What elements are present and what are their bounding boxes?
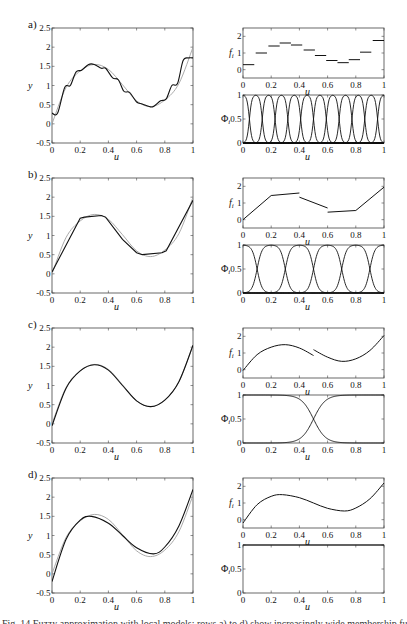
- x-tick-label: 1: [191, 145, 196, 155]
- y-axis-label: fi: [229, 497, 234, 510]
- y-axis-label: fi: [229, 47, 234, 60]
- y-axis-label: Φi: [221, 563, 230, 576]
- y-tick-label: 1: [237, 198, 242, 208]
- x-axis-label: u: [305, 601, 310, 612]
- x-tick-label: 0.6: [322, 530, 334, 540]
- figure: a) 00.20.40.60.81-0.500.511.522.5uy00.20…: [0, 0, 407, 624]
- y-tick-label: 0.5: [39, 550, 51, 560]
- local-model-segment: [243, 345, 314, 371]
- figure-caption: Fig. 14 Fuzzy approximation with local m…: [2, 617, 407, 624]
- x-tick-label: 0.8: [350, 530, 362, 540]
- local-model-segment: [243, 483, 384, 523]
- x-tick-label: 0.6: [322, 445, 334, 455]
- x-tick-label: 0: [241, 295, 246, 305]
- x-tick-label: 1: [191, 295, 196, 305]
- y-tick-label: 0.5: [39, 250, 51, 260]
- x-axis-label: u: [305, 151, 310, 162]
- y-tick-label: 1: [46, 231, 51, 241]
- x-tick-label: 0.8: [350, 230, 362, 240]
- x-tick-label: 0.2: [266, 230, 277, 240]
- y-tick-label: 0: [237, 288, 242, 298]
- y-tick-label: 0.5: [230, 564, 242, 574]
- x-tick-label: 0: [50, 145, 55, 155]
- target-curve: [52, 495, 193, 574]
- y-tick-label: 0.5: [39, 100, 51, 110]
- x-tick-label: 1: [191, 595, 196, 605]
- x-tick-label: 0.8: [350, 380, 362, 390]
- y-axis-label: y: [27, 80, 33, 91]
- y-tick-label: 1.5: [39, 361, 51, 371]
- y-axis-label: Φi: [221, 113, 230, 126]
- x-tick-label: 1: [382, 595, 387, 605]
- x-tick-label: 0.8: [159, 445, 171, 455]
- chart-row-b: 00.20.40.60.81-0.500.511.522.5uy00.20.40…: [27, 173, 386, 312]
- y-axis-label: Φi: [221, 263, 230, 276]
- x-tick-label: 0.4: [103, 445, 115, 455]
- x-axis-label: u: [114, 451, 119, 462]
- membership-plot: 00.20.40.60.8100.51uΦi: [221, 240, 386, 312]
- y-axis-label: y: [27, 230, 33, 241]
- panel-label-d: d): [28, 468, 37, 480]
- y-tick-label: 0.5: [39, 400, 51, 410]
- x-tick-label: 0.4: [103, 145, 115, 155]
- target-curve: [52, 197, 193, 274]
- y-tick-label: 0: [237, 588, 242, 598]
- y-tick-label: 1: [237, 498, 242, 508]
- y-tick-label: 2: [237, 181, 242, 191]
- y-tick-label: 0: [46, 419, 51, 429]
- y-tick-label: 2: [46, 192, 51, 202]
- local-model-segment: [243, 193, 299, 220]
- membership-plot: 00.20.40.60.8100.51uΦi: [221, 90, 386, 162]
- y-tick-label: 2: [46, 342, 51, 352]
- y-tick-label: 2.5: [39, 23, 51, 33]
- local-models-plot: 00.20.40.60.81012ufi: [229, 178, 386, 247]
- local-models-plot: 00.20.40.60.81012ufi: [229, 478, 386, 547]
- x-tick-label: 0.4: [294, 530, 306, 540]
- x-tick-label: 0.2: [266, 445, 277, 455]
- local-model-segment: [314, 336, 385, 362]
- panel-label-c: c): [28, 318, 37, 330]
- y-tick-label: 0: [237, 65, 242, 75]
- y-tick-label: 0.5: [230, 264, 242, 274]
- y-tick-label: -0.5: [36, 288, 51, 298]
- x-tick-label: 0: [50, 295, 55, 305]
- x-tick-label: 0.4: [103, 595, 115, 605]
- x-tick-label: 0.2: [75, 145, 86, 155]
- y-tick-label: 0: [237, 138, 242, 148]
- y-tick-label: 0: [237, 515, 242, 525]
- x-tick-label: 0.6: [322, 295, 334, 305]
- y-tick-label: 1: [237, 90, 242, 100]
- local-models-plot: 00.20.40.60.81012ufi: [229, 28, 386, 97]
- y-tick-label: 0: [46, 269, 51, 279]
- x-tick-label: 0: [241, 145, 246, 155]
- x-tick-label: 0.2: [266, 530, 277, 540]
- y-axis-label: fi: [229, 347, 234, 360]
- x-tick-label: 0.6: [131, 445, 143, 455]
- x-tick-label: 1: [382, 80, 387, 90]
- x-tick-label: 0.6: [322, 145, 334, 155]
- x-tick-label: 0.6: [131, 145, 143, 155]
- y-tick-label: 0: [237, 365, 242, 375]
- x-tick-label: 0.6: [322, 380, 334, 390]
- membership-curve: [243, 395, 384, 443]
- y-tick-label: 2: [237, 331, 242, 341]
- x-tick-label: 0.2: [266, 80, 277, 90]
- axes-frame: [243, 545, 384, 593]
- x-tick-label: 0.2: [266, 145, 277, 155]
- main-plot: 00.20.40.60.81-0.500.511.522.5uy: [27, 473, 195, 612]
- local-models-plot: 00.20.40.60.81012ufi: [229, 328, 386, 397]
- y-tick-label: 2.5: [39, 473, 51, 483]
- y-tick-label: 2: [46, 42, 51, 52]
- y-tick-label: 2.5: [39, 173, 51, 183]
- model-curve: [52, 490, 193, 582]
- main-plot: 00.20.40.60.81-0.500.511.522.5uy: [27, 23, 195, 162]
- y-tick-label: 1: [46, 531, 51, 541]
- x-tick-label: 1: [382, 295, 387, 305]
- x-tick-label: 0.6: [131, 595, 143, 605]
- x-tick-label: 0: [241, 595, 246, 605]
- x-tick-label: 0.8: [350, 595, 362, 605]
- axes-frame: [243, 328, 384, 378]
- model-curve: [52, 200, 193, 272]
- y-tick-label: 1: [237, 240, 242, 250]
- x-tick-label: 0.8: [350, 80, 362, 90]
